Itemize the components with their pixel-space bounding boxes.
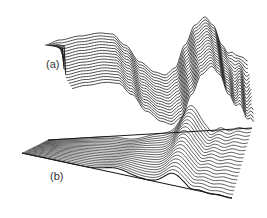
- panel-label-a: (a): [46, 58, 59, 70]
- plot-a-surface: [45, 17, 254, 124]
- plot-b-surface: [22, 106, 252, 199]
- trace-b-line: [43, 120, 248, 145]
- panel-label-b: (b): [50, 170, 63, 182]
- figure-canvas: [0, 0, 267, 218]
